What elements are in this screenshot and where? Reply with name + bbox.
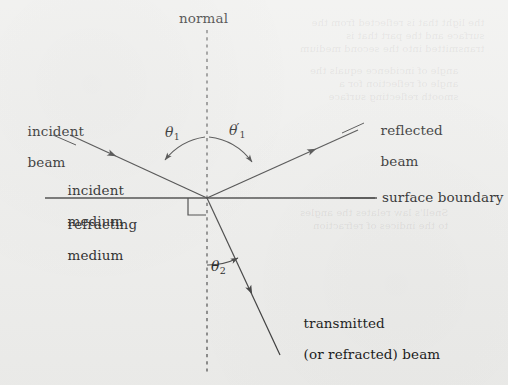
reflected-beam-label: reflected beam (363, 107, 443, 185)
transmitted-beam-label: transmitted (or refracted) beam (286, 300, 440, 378)
theta2-subscript: 2 (220, 265, 226, 276)
theta2-label: θ2 (211, 258, 226, 276)
normal-label: normal (179, 11, 228, 27)
refracting-medium-label: refracting medium (50, 201, 137, 279)
surface-boundary-label: surface boundary (382, 190, 504, 206)
transmitted-beam-label-line1: transmitted (304, 315, 385, 331)
transmitted-beam-label-line2: (or refracted) beam (304, 346, 441, 362)
theta1-label: θ1 (165, 124, 180, 142)
theta1-subscript: 1 (174, 131, 180, 142)
reflected-beam-leader (342, 123, 364, 133)
figure-canvas: the light that is reflected from the sur… (0, 0, 508, 385)
theta2-symbol: θ (211, 258, 219, 274)
theta1-symbol: θ (165, 124, 173, 140)
refracting-medium-label-line1: refracting (68, 216, 138, 232)
theta1-prime-subscript: 1 (240, 129, 246, 140)
right-angle-marker (188, 198, 206, 215)
incident-medium-label-line1: incident (68, 182, 124, 198)
reflected-beam-label-line2: beam (381, 153, 419, 169)
transmitted-beam-line (207, 198, 280, 355)
incident-beam-label-line1: incident (28, 123, 84, 139)
theta1-prime-arc (209, 137, 252, 162)
refracting-medium-label-line2: medium (68, 247, 124, 263)
reflected-beam-line (207, 130, 358, 198)
theta1-prime-mark: ′ (236, 121, 239, 136)
reflected-beam-label-line1: reflected (381, 122, 443, 138)
theta1-prime-label: θ′1 (229, 121, 246, 140)
